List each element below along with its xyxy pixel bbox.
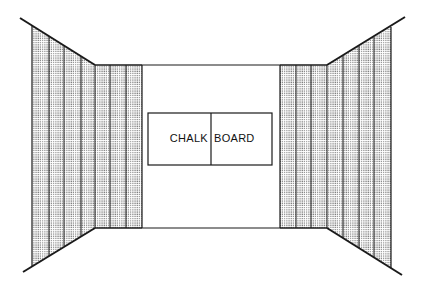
chalkboard: CHALK BOARD	[148, 113, 272, 165]
room-drawing: CHALK BOARD	[0, 0, 426, 289]
chalkboard-label-left: CHALK	[170, 132, 209, 144]
room-diagram: CHALK BOARD	[0, 0, 426, 289]
right-wall	[280, 17, 405, 275]
left-wall	[20, 18, 142, 272]
chalkboard-label-right: BOARD	[214, 132, 255, 144]
